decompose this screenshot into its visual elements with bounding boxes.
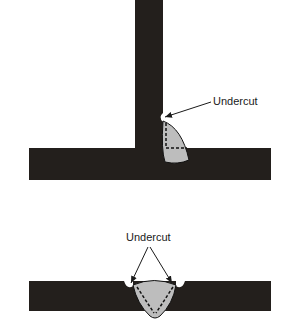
undercut-label-top: Undercut bbox=[213, 95, 258, 107]
diagram-graphics bbox=[0, 0, 289, 326]
fillet-weld bbox=[162, 121, 189, 163]
undercut-label-bottom: Undercut bbox=[126, 231, 171, 243]
t-joint-diagram bbox=[29, 0, 271, 180]
undercut-leader-left bbox=[131, 247, 148, 283]
undercut-leader-top bbox=[165, 102, 211, 117]
undercut-diagram: Undercut Undercut bbox=[0, 0, 289, 326]
butt-joint-diagram bbox=[29, 247, 271, 318]
vertical-plate bbox=[135, 0, 163, 149]
horizontal-plate-top bbox=[29, 148, 271, 180]
groove-weld bbox=[133, 281, 176, 319]
undercut-leader-right bbox=[150, 247, 172, 283]
